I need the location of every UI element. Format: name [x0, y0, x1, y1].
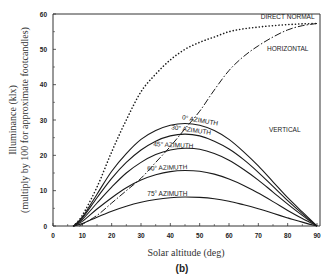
illuminance-chart: 0102030405060708090 0102030405060 DIRECT… — [0, 0, 326, 279]
series-line-45-azimuth — [74, 148, 318, 226]
x-tick-label: 90 — [313, 232, 321, 239]
x-tick-label: 10 — [79, 232, 87, 239]
series-line-0-azimuth — [74, 124, 318, 227]
x-tick-label: 0 — [51, 232, 55, 239]
annotation-horizontal: HORIZONTAL — [267, 45, 309, 52]
y-tick-label: 30 — [40, 117, 48, 124]
annotation-direct-normal: DIRECT NORMAL — [261, 13, 315, 20]
y-axis-label-line2: (multiply by 100 for approximate footcan… — [19, 27, 31, 213]
y-tick-label: 50 — [40, 46, 48, 53]
x-tick-label: 30 — [137, 232, 145, 239]
x-tick-label: 70 — [255, 232, 263, 239]
x-tick-label: 50 — [196, 232, 204, 239]
x-axis: 0102030405060708090 — [51, 223, 321, 239]
x-tick-label: 20 — [108, 232, 116, 239]
x-axis-label: Solar altitude (deg) — [147, 247, 224, 259]
series-lines — [74, 24, 318, 227]
series-line-75-azimuth — [74, 197, 318, 226]
annotation-vertical: VERTICAL — [269, 126, 301, 133]
annotation-45-azimuth: 45° AZIMUTH — [153, 140, 194, 149]
annotation-75-azimuth: 75° AZIMUTH — [147, 190, 187, 197]
y-tick-label: 10 — [40, 187, 48, 194]
y-tick-label: 0 — [43, 223, 47, 230]
y-tick-label: 20 — [40, 152, 48, 159]
annotation-60-azimuth: 60° AZIMUTH — [147, 163, 188, 171]
x-tick-label: 40 — [167, 232, 175, 239]
y-tick-label: 40 — [40, 81, 48, 88]
y-axis-label-line1: Illuminance (klx) — [7, 85, 19, 155]
x-tick-label: 80 — [284, 232, 292, 239]
y-tick-label: 60 — [40, 11, 48, 18]
annotations: DIRECT NORMALHORIZONTALVERTICAL0° AZIMUT… — [147, 13, 315, 197]
x-tick-label: 60 — [225, 232, 233, 239]
y-axis: 0102030405060 — [40, 11, 56, 230]
figure-caption: (b) — [176, 263, 189, 274]
